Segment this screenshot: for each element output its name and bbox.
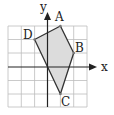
x-axis-arrow-icon xyxy=(89,64,97,71)
vertex-label-d: D xyxy=(23,28,33,42)
coordinate-plane: y x A B C D xyxy=(0,0,114,115)
vertex-label-a: A xyxy=(54,10,64,24)
vertex-label-c: C xyxy=(61,95,70,109)
x-axis-label: x xyxy=(101,60,108,74)
vertex-label-b: B xyxy=(75,41,84,55)
y-axis-label: y xyxy=(39,0,47,14)
quadrilateral-abcd xyxy=(35,26,74,94)
